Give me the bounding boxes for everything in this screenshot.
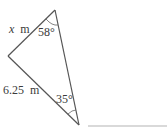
- side-label-length: 6.25 m: [3, 83, 40, 97]
- angle-label-bottom: 35°: [56, 92, 73, 106]
- side-unit-2: m: [30, 83, 40, 97]
- side-variable: x: [8, 22, 15, 36]
- side-top-bottom: [55, 10, 79, 125]
- angle-label-top: 58°: [38, 25, 55, 39]
- side-label-x: x m: [8, 22, 30, 36]
- triangle-diagram: x m 58° 6.25 m 35°: [0, 0, 167, 131]
- side-unit: m: [20, 22, 30, 36]
- angle-arc-bottom: [68, 110, 76, 114]
- side-value: 6.25: [3, 83, 24, 97]
